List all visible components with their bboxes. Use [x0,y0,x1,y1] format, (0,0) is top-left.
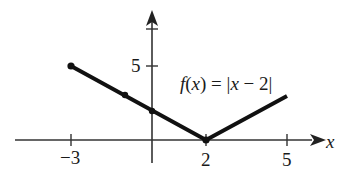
point-neg3-5 [67,62,74,69]
function-label: f(x) = |x − 2| [180,73,272,95]
y-tick-label-5: 5 [131,55,141,76]
point-neg1-3 [122,92,128,98]
x-axis-arrow-icon [310,134,326,146]
function-graph: −3 2 5 5 x f(x) = |x − 2| [0,0,347,176]
x-tick-label-5: 5 [282,149,292,170]
point-2-0 [202,136,209,143]
x-axis-label: x [325,131,335,152]
point-0-2 [149,108,155,114]
x-tick-label-2: 2 [201,149,211,170]
x-tick-label-neg3: −3 [60,147,80,168]
